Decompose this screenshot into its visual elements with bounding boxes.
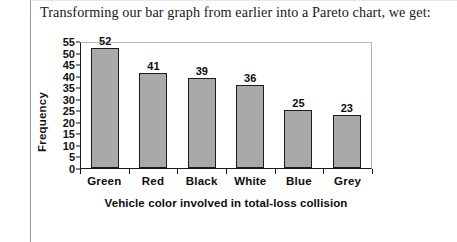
x-axis-title: Vehicle color involved in total-loss col… (56, 197, 396, 209)
x-axis-category-label: Blue (275, 175, 324, 187)
plot-area: 524139362523 (80, 42, 372, 169)
bar: 41 (139, 73, 167, 168)
y-axis-tick-label: 30 (56, 95, 75, 105)
y-axis-tick-label: 55 (56, 37, 75, 47)
y-axis-tick-label: 50 (56, 49, 75, 59)
x-axis-tick-mark (226, 169, 227, 174)
y-axis-title: Frequency (36, 74, 50, 170)
scan-artifact-line (31, 0, 457, 1)
x-axis-tick-marks (80, 169, 372, 174)
y-axis-tick-labels: 5550454035302520151050 (56, 42, 75, 169)
page-margin-rule (30, 0, 31, 242)
bar: 36 (236, 85, 264, 168)
y-axis-tick-label: 5 (56, 152, 75, 162)
x-axis-tick-mark (80, 169, 81, 174)
x-axis-category-label: White (226, 175, 275, 187)
bar: 25 (284, 110, 312, 168)
x-axis-tick-mark (323, 169, 324, 174)
y-axis-tick-label: 10 (56, 141, 75, 151)
y-axis-tick-label: 40 (56, 72, 75, 82)
bar-value-label: 36 (244, 73, 256, 84)
y-axis-tick-label: 25 (56, 106, 75, 116)
x-axis-category-label: Grey (323, 175, 372, 187)
y-axis-tick-label: 15 (56, 129, 75, 139)
bar-value-label: 41 (147, 61, 159, 72)
x-axis-tick-mark (129, 169, 130, 174)
bar: 39 (188, 78, 216, 168)
y-axis-tick-label: 0 (56, 164, 75, 174)
bar-slot: 52 (81, 43, 129, 168)
bar: 52 (91, 48, 119, 168)
bar-slot: 39 (178, 43, 226, 168)
x-axis-category-label: Black (177, 175, 226, 187)
intro-paragraph: Transforming our bar graph from earlier … (40, 3, 450, 22)
bar: 23 (333, 115, 361, 168)
x-axis-tick-mark (177, 169, 178, 174)
bar-slot: 36 (226, 43, 274, 168)
bar-value-label: 23 (341, 103, 353, 114)
bar-value-label: 52 (99, 36, 111, 47)
bar-series: 524139362523 (81, 43, 371, 168)
bar-value-label: 39 (196, 66, 208, 77)
x-axis-tick-mark (275, 169, 276, 174)
bar-slot: 25 (274, 43, 322, 168)
y-axis-tick-label: 20 (56, 118, 75, 128)
x-axis-tick-mark (372, 169, 373, 174)
y-axis-tick-label: 35 (56, 83, 75, 93)
x-axis-category-label: Red (129, 175, 178, 187)
y-axis-tick-label: 45 (56, 60, 75, 70)
bar-value-label: 25 (292, 98, 304, 109)
x-axis-category-label: Green (80, 175, 129, 187)
bar-slot: 23 (323, 43, 371, 168)
bar-slot: 41 (129, 43, 177, 168)
pareto-bar-chart: Frequency 5550454035302520151050 5241393… (56, 34, 376, 214)
x-axis-tick-labels: GreenRedBlackWhiteBlueGrey (80, 175, 372, 187)
